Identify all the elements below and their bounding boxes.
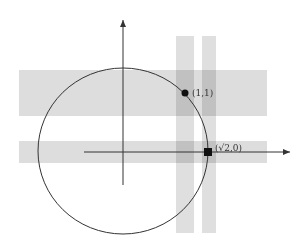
horizontal-band-0	[19, 70, 267, 116]
vertical-band-0	[176, 36, 194, 233]
point-sqrt2-0-label: (√2,0)	[215, 143, 242, 153]
point-1-1-label: (1,1)	[192, 88, 213, 98]
point-1-1-marker-icon	[182, 90, 189, 97]
vertical-band-1	[202, 36, 216, 233]
diagram-canvas: (1,1)(√2,0)	[0, 0, 305, 246]
point-sqrt2-0-marker-icon	[204, 148, 212, 156]
vertical-bands	[176, 36, 216, 233]
